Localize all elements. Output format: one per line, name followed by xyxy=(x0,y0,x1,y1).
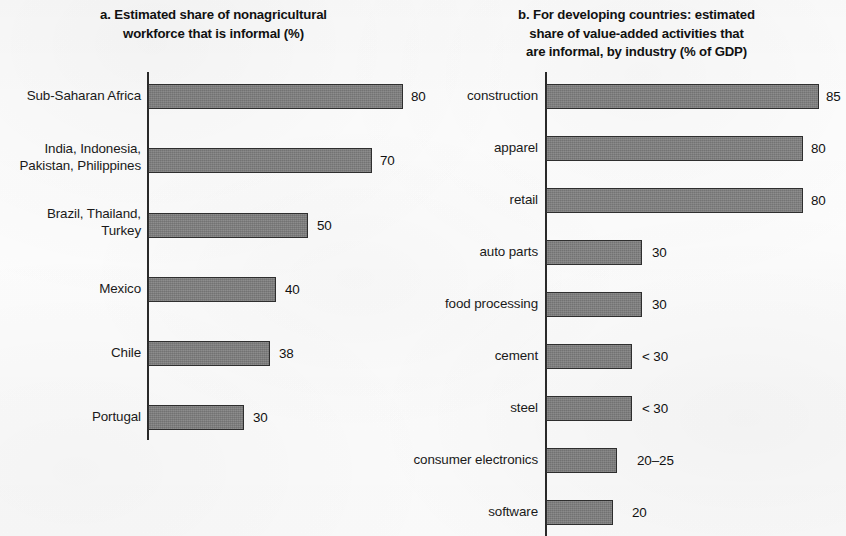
chart-b-bar xyxy=(546,500,613,525)
chart-b-bar xyxy=(546,448,617,473)
chart-a-category-line: Pakistan, Philippines xyxy=(20,158,141,173)
chart-b-category-line: apparel xyxy=(494,140,538,155)
chart-b-value-label: 20 xyxy=(632,505,647,520)
chart-a-axis xyxy=(147,72,149,440)
chart-b-value-label: 30 xyxy=(652,297,667,312)
chart-a-bar xyxy=(148,405,244,430)
chart-a-value-label: 50 xyxy=(317,218,332,233)
chart-b-bar xyxy=(546,292,642,317)
chart-b-value-label: 30 xyxy=(652,245,667,260)
chart-b-value-label: 20–25 xyxy=(637,453,674,468)
chart-b-category-line: retail xyxy=(510,192,538,207)
chart-a-category-label: Mexico xyxy=(0,281,141,298)
chart-b-value-label: 85 xyxy=(826,89,841,104)
chart-a-category-line: Turkey xyxy=(101,223,141,238)
chart-b-category-label: cement xyxy=(338,348,538,365)
chart-a-category-label: Sub-Saharan Africa xyxy=(0,88,141,105)
chart-b-value-label: 80 xyxy=(811,141,826,156)
chart-a-category-label: Brazil, Thailand, Turkey xyxy=(0,206,141,239)
chart-a-value-label: 38 xyxy=(279,346,294,361)
chart-b-category-label: auto parts xyxy=(338,244,538,261)
chart-b-category-label: consumer electronics xyxy=(328,452,538,469)
chart-a-value-label: 30 xyxy=(253,410,268,425)
chart-a-category-line: Portugal xyxy=(92,409,141,424)
chart-b-value-label: < 30 xyxy=(642,349,668,364)
chart-a-category-line: Chile xyxy=(111,345,141,360)
chart-b-category-label: food processing xyxy=(338,296,538,313)
chart-a-bar xyxy=(148,213,308,238)
chart-a-category-line: Mexico xyxy=(99,281,141,296)
chart-a-value-label: 40 xyxy=(285,282,300,297)
chart-b-bar xyxy=(546,240,642,265)
chart-b-category-label: steel xyxy=(338,400,538,417)
chart-b-category-label: construction xyxy=(338,88,538,105)
chart-b-category-line: food processing xyxy=(445,296,538,311)
chart-b-category-line: software xyxy=(488,504,538,519)
chart-b-category-line: auto parts xyxy=(479,244,538,259)
chart-b-bar xyxy=(546,188,803,213)
chart-b-value-label: 80 xyxy=(811,193,826,208)
chart-b-bar xyxy=(546,344,632,369)
chart-b-category-label: retail xyxy=(338,192,538,209)
chart-b-category-line: steel xyxy=(510,400,538,415)
chart-a-category-label: Chile xyxy=(0,345,141,362)
chart-a-bar xyxy=(148,341,270,366)
chart-b-bar xyxy=(546,136,803,161)
chart-a-category-line: Brazil, Thailand, xyxy=(47,206,141,221)
chart-b-bar xyxy=(546,84,819,109)
chart-a-category-line: Sub-Saharan Africa xyxy=(27,88,141,103)
chart-b-plot-area: construction 85 apparel 80 retail 80 aut… xyxy=(423,0,846,536)
chart-b-bar xyxy=(546,396,632,421)
chart-b-category-label: apparel xyxy=(338,140,538,157)
figure-panels: a. Estimated share of nonagricultural wo… xyxy=(0,0,846,536)
chart-a-category-label: India, Indonesia, Pakistan, Philippines xyxy=(0,141,141,174)
chart-a-category-line: India, Indonesia, xyxy=(44,141,141,156)
chart-a-bar xyxy=(148,277,276,302)
chart-b-category-line: cement xyxy=(495,348,538,363)
chart-b-category-line: construction xyxy=(467,88,538,103)
chart-b-value-label: < 30 xyxy=(642,401,668,416)
chart-b-category-line: consumer electronics xyxy=(413,452,538,467)
chart-panel-b: b. For developing countries: estimated s… xyxy=(423,0,846,536)
chart-b-category-label: software xyxy=(338,504,538,521)
chart-a-category-label: Portugal xyxy=(0,409,141,426)
